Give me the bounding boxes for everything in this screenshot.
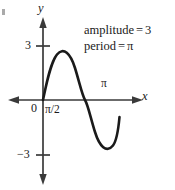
annotation-block: amplitude=3 period=π bbox=[84, 22, 151, 54]
y-axis-label: y bbox=[38, 1, 44, 16]
origin-label: 0 bbox=[31, 101, 37, 116]
annotation-period: period=π bbox=[84, 38, 151, 54]
annotation-amplitude-label: amplitude bbox=[84, 23, 134, 37]
x-tick-label-pi-over-2: π/2 bbox=[45, 103, 60, 115]
sine-curve-figure: amplitude=3 period=π y x 3 −3 0 π/2 π bbox=[0, 0, 175, 190]
y-tick-label-3: 3 bbox=[25, 38, 31, 53]
annotation-period-label: period bbox=[84, 39, 116, 53]
x-axis-label: x bbox=[142, 89, 148, 104]
annotation-period-value: π bbox=[127, 39, 133, 53]
annotation-amplitude-value: 3 bbox=[145, 23, 151, 37]
annotation-amplitude-equals: = bbox=[134, 23, 145, 37]
x-tick-label-pi: π bbox=[101, 77, 107, 89]
y-tick-label-minus-3: −3 bbox=[17, 147, 30, 162]
annotation-period-equals: = bbox=[116, 39, 127, 53]
annotation-amplitude: amplitude=3 bbox=[84, 22, 151, 38]
x-axis bbox=[8, 96, 143, 104]
